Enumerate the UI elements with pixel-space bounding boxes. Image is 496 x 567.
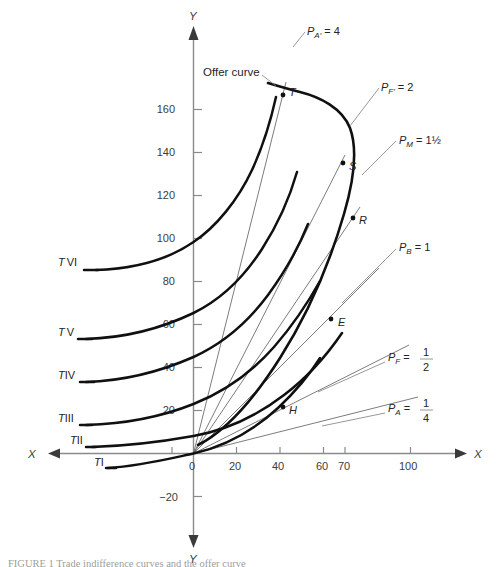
- y-axis-label-top: Y: [189, 10, 198, 22]
- y-tick-label-140: 140: [157, 146, 175, 158]
- point-labels-group: T S R E H: [289, 86, 367, 416]
- price-fraction-PF-numerator: 1: [423, 346, 429, 358]
- price-ray-PF-prime[interactable]: [194, 155, 346, 454]
- price-label-PB-group[interactable]: PB = 1: [342, 241, 430, 303]
- curve-label-T-VI-group[interactable]: TVI: [58, 256, 98, 270]
- figure-root: 0 20 40 60 70 100 20 40 60 80 100 120 14…: [0, 0, 496, 567]
- y-tick-label-100: 100: [157, 232, 175, 244]
- price-label-PA-prime: PA′ = 4: [307, 25, 340, 40]
- y-tick-label-160: 160: [157, 103, 175, 115]
- curve-label-T-IV-roman: IV: [65, 369, 76, 381]
- price-label-PM-group[interactable]: PM = 1½: [362, 134, 441, 175]
- curve-label-T-II-roman: II: [77, 434, 83, 446]
- price-label-PF-group[interactable]: PF = 1 2: [318, 346, 433, 392]
- curve-label-T-II: TII: [70, 434, 83, 446]
- price-ray-PF[interactable]: [194, 345, 410, 454]
- curve-label-T-III: TIII: [58, 412, 74, 424]
- curve-label-T-III-roman: III: [65, 412, 74, 424]
- x-tick-label-100: 100: [399, 460, 417, 472]
- curve-label-T-V-main: T: [58, 326, 66, 338]
- curve-label-T-VI-main: T: [58, 256, 66, 268]
- point-marker-R[interactable]: [351, 216, 356, 221]
- price-leader-PF: [318, 362, 385, 392]
- price-label-PF-prime-group[interactable]: PF′ = 2: [350, 81, 413, 126]
- x-tick-label-60: 60: [316, 460, 328, 472]
- point-marker-S[interactable]: [341, 161, 346, 166]
- x-axis-left-arrow: [48, 449, 60, 459]
- curve-T-VI[interactable]: [96, 97, 276, 270]
- point-label-H: H: [289, 404, 297, 416]
- point-marker-H[interactable]: [281, 405, 286, 410]
- curve-label-T-I-roman: I: [101, 456, 104, 468]
- price-label-PA-prime-group[interactable]: PA′ = 4: [293, 25, 340, 47]
- x-axis-label-left: X: [27, 448, 37, 460]
- curve-label-T-I: TI: [94, 456, 104, 468]
- x-axis-label-right: X: [473, 448, 483, 460]
- price-label-PB: PB = 1: [399, 241, 430, 256]
- offer-curve-label: Offer curve: [203, 66, 260, 78]
- price-leader-PB: [342, 249, 396, 303]
- curve-label-T-V-roman: V: [67, 326, 75, 338]
- curve-label-T-V-group[interactable]: TV: [58, 326, 92, 339]
- curve-T-V[interactable]: [86, 172, 297, 339]
- price-label-PA: PA =: [388, 402, 410, 417]
- y-tick-label-neg20: −20: [159, 491, 178, 503]
- point-marker-T[interactable]: [281, 93, 286, 98]
- offer-curve-annotation: Offer curve: [203, 66, 276, 86]
- x-tick-label-40: 40: [272, 460, 284, 472]
- price-fraction-PA: 1 4: [420, 397, 433, 424]
- curve-label-T-I-group[interactable]: TI: [94, 456, 116, 468]
- price-leader-PA: [322, 413, 385, 426]
- price-label-PM: PM = 1½: [399, 134, 441, 149]
- x-tick-label-0: 0: [189, 460, 195, 472]
- axis-names-group: Y Y X X: [27, 10, 483, 565]
- trade-indifference-chart: 0 20 40 60 70 100 20 40 60 80 100 120 14…: [0, 0, 496, 567]
- price-fraction-PA-denominator: 4: [423, 412, 429, 424]
- price-label-PF: PF =: [388, 351, 410, 366]
- curve-label-T-IV: TIV: [58, 369, 76, 381]
- curve-T-II[interactable]: [92, 333, 342, 447]
- y-axis-bottom-arrow: [189, 535, 199, 548]
- curve-label-T-III-group[interactable]: TIII: [58, 412, 92, 425]
- curve-label-T-V: TV: [58, 326, 75, 338]
- indifference-curve-labels-group: TVI TV TIV TIII: [58, 256, 116, 468]
- price-label-PF-prime: PF′ = 2: [381, 81, 413, 96]
- point-marker-E[interactable]: [329, 317, 334, 322]
- x-tick-label-70: 70: [338, 460, 350, 472]
- curve-label-T-II-group[interactable]: TII: [70, 434, 96, 447]
- price-label-PA-group[interactable]: PA = 1 4: [322, 397, 433, 426]
- y-axis-top-arrow: [189, 26, 199, 40]
- price-fraction-PF-denominator: 2: [423, 361, 429, 373]
- price-fraction-PF: 1 2: [420, 346, 433, 373]
- price-leader-PA-prime: [293, 32, 305, 47]
- figure-caption: FIGURE 1 Trade indifference curves and t…: [8, 558, 246, 567]
- y-tick-label-120: 120: [157, 189, 175, 201]
- curve-label-T-VI: TVI: [58, 256, 77, 268]
- price-leader-PM: [362, 141, 396, 175]
- curve-label-T-IV-group[interactable]: TIV: [58, 369, 94, 382]
- point-label-E: E: [338, 316, 346, 328]
- curve-T-IV[interactable]: [86, 224, 308, 382]
- point-label-S: S: [349, 160, 357, 172]
- y-tick-label-80: 80: [163, 275, 175, 287]
- price-fraction-PA-numerator: 1: [423, 397, 429, 409]
- x-tick-label-20: 20: [229, 460, 241, 472]
- price-rays-group: [194, 82, 419, 454]
- curve-label-T-VI-roman: VI: [67, 256, 77, 268]
- price-leader-PF-prime: [350, 88, 379, 126]
- point-label-R: R: [359, 214, 367, 226]
- x-axis-right-arrow: [455, 449, 467, 459]
